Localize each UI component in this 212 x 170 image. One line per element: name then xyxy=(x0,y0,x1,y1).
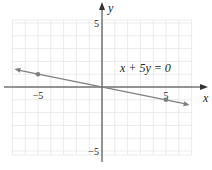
x-axis-arrow-icon xyxy=(200,84,208,90)
y-axis-label: y xyxy=(107,1,114,15)
series-arrow-left-icon xyxy=(14,68,20,73)
series-arrow-right-icon xyxy=(183,101,189,106)
x-tick-label: −5 xyxy=(33,90,44,101)
x-axis-label: x xyxy=(202,91,209,105)
y-axis-arrow-icon xyxy=(99,2,105,10)
y-tick-label: 5 xyxy=(94,18,99,29)
chart: x y −555−5 x + 5y = 0 xyxy=(0,0,212,170)
y-tick-label: −5 xyxy=(88,146,99,157)
equation-label: x + 5y = 0 xyxy=(119,61,171,75)
data-point xyxy=(36,72,41,77)
data-point xyxy=(164,98,169,103)
